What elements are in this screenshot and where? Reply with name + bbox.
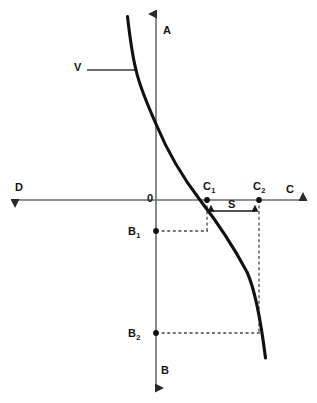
point-label-c1: C1 <box>203 181 215 192</box>
axis-label-a: A <box>163 25 171 36</box>
axis-label-d: D <box>15 182 23 193</box>
point-label-c2-subscript: 2 <box>261 186 265 195</box>
diagram-canvas: A B C D 0 V C1 C2 B1 B2 S <box>0 0 317 403</box>
point-label-b2: B2 <box>128 328 140 339</box>
point-label-b2-text: B <box>128 327 136 339</box>
point-label-b2-subscript: 2 <box>136 333 140 342</box>
span-label-s: S <box>228 199 235 210</box>
point-label-c2: C2 <box>253 181 265 192</box>
point-b2-dot <box>153 330 159 336</box>
point-label-b1-text: B <box>128 225 136 237</box>
point-b1-dot <box>153 228 159 234</box>
origin-label: 0 <box>147 193 153 204</box>
point-label-b1: B1 <box>128 226 140 237</box>
axis-label-c: C <box>286 184 294 195</box>
axis-label-b: B <box>161 365 169 376</box>
point-label-c2-text: C <box>253 180 261 192</box>
diagram-svg <box>0 0 317 403</box>
point-label-b1-subscript: 1 <box>136 231 140 240</box>
characteristic-curve <box>128 17 266 359</box>
point-label-c1-text: C <box>203 180 211 192</box>
point-c1-dot <box>204 197 210 203</box>
point-label-c1-subscript: 1 <box>211 186 215 195</box>
point-c2-dot <box>256 197 262 203</box>
curve-label-v: V <box>74 62 81 73</box>
